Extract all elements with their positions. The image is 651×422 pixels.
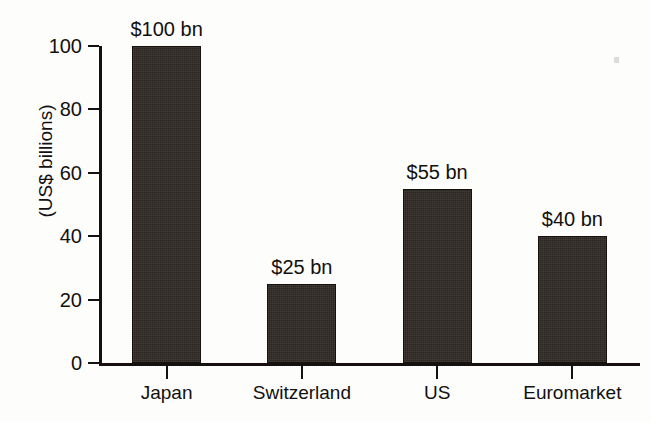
y-tick-label: 20 [60, 288, 82, 311]
y-tick-label: 40 [60, 225, 82, 248]
bar-value-label: $25 bn [212, 256, 392, 279]
x-category-label: Euromarket [477, 382, 651, 404]
y-tick-label: 0 [71, 352, 82, 375]
y-axis-title: (US$ billions) [35, 71, 57, 251]
x-tick-mark [436, 366, 438, 379]
y-tick-mark: 0 [88, 362, 99, 364]
bar-value-label: $40 bn [482, 208, 651, 231]
x-tick-mark [571, 366, 573, 379]
bar [267, 284, 336, 363]
plot-area: 020406080100 [99, 46, 640, 366]
y-axis-line [99, 46, 102, 366]
x-tick-mark [301, 366, 303, 379]
bar-value-label: $55 bn [347, 161, 527, 184]
bar-value-label: $100 bn [77, 18, 257, 41]
y-tick-mark: 80 [88, 108, 99, 110]
y-tick-mark: 100 [88, 45, 99, 47]
x-tick-mark [166, 366, 168, 379]
bar [538, 236, 607, 363]
x-axis-line [99, 363, 640, 366]
y-tick-label: 60 [60, 161, 82, 184]
y-tick-mark: 40 [88, 235, 99, 237]
y-tick-mark: 60 [88, 172, 99, 174]
bar [403, 189, 472, 363]
bar [132, 46, 201, 363]
bar-chart: (US$ billions) 020406080100 $100 bn$25 b… [0, 0, 651, 422]
y-tick-mark: 20 [88, 299, 99, 301]
y-tick-label: 80 [60, 98, 82, 121]
